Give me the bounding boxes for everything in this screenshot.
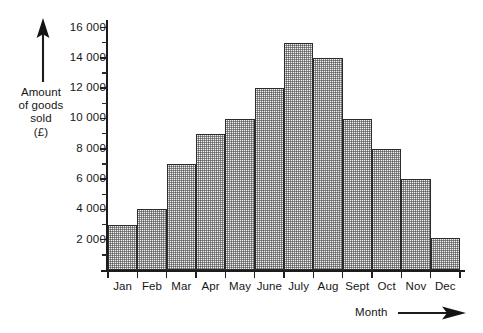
y-axis-major-tick (100, 118, 108, 120)
up-arrow-icon (33, 18, 53, 82)
x-axis-tick (342, 270, 344, 278)
x-axis-tick (371, 270, 373, 278)
bar-jan (108, 225, 137, 270)
x-axis-tick (254, 270, 256, 278)
bar-june (255, 88, 284, 270)
x-axis-tick (166, 270, 168, 278)
y-axis-tick-label: 12 000 (58, 82, 106, 94)
y-axis-tick-label: 2 000 (58, 234, 106, 246)
y-axis-tick-label: 8 000 (58, 143, 106, 155)
right-arrow-icon (398, 305, 466, 321)
y-axis-tick-labels: 2 0004 0006 0008 00010 00012 00014 00016… (58, 0, 106, 333)
x-axis-title: Month (355, 306, 387, 319)
x-axis-tick (459, 270, 461, 278)
bar-mar (167, 164, 196, 270)
y-axis-tick-label: 16 000 (58, 22, 106, 34)
y-axis-minor-tick (102, 103, 107, 104)
x-axis-label-may: May (229, 280, 251, 293)
bar-may (225, 119, 254, 271)
y-axis-minor-tick (102, 133, 107, 134)
x-axis-tick (225, 270, 227, 278)
x-axis-label-oct: Oct (378, 280, 396, 293)
plot-area (108, 20, 460, 270)
y-axis-minor-tick (102, 194, 107, 195)
bar-feb (137, 209, 166, 270)
x-axis-label-apr: Apr (202, 280, 220, 293)
bar-sept (343, 119, 372, 271)
x-axis-label-aug: Aug (318, 280, 339, 293)
x-axis-label-sept: Sept (345, 280, 369, 293)
y-axis-minor-tick (102, 42, 107, 43)
bar-oct (372, 149, 401, 270)
y-axis-major-tick (100, 27, 108, 29)
x-axis-label-july: July (288, 280, 309, 293)
x-axis-label-feb: Feb (142, 280, 162, 293)
y-axis-major-tick (100, 178, 108, 180)
y-axis-tick-label: 4 000 (58, 204, 106, 216)
bar-apr (196, 134, 225, 270)
bar-nov (401, 179, 430, 270)
x-axis-label-mar: Mar (171, 280, 191, 293)
x-axis-tick (107, 270, 109, 278)
x-axis-tick (137, 270, 139, 278)
x-axis-tick (313, 270, 315, 278)
y-axis-tick-label: 14 000 (58, 52, 106, 64)
bar-dec (431, 238, 460, 270)
x-axis-label-nov: Nov (406, 280, 427, 293)
y-axis-minor-tick (102, 254, 107, 255)
y-axis-major-tick (100, 239, 108, 241)
x-axis-tick (195, 270, 197, 278)
y-axis-major-tick (100, 209, 108, 211)
y-axis-minor-tick (102, 163, 107, 164)
y-axis-tick-label: 6 000 (58, 173, 106, 185)
y-axis-minor-tick (102, 224, 107, 225)
bar-july (284, 43, 313, 270)
x-axis-label-dec: Dec (435, 280, 456, 293)
x-axis-tick (401, 270, 403, 278)
x-axis-label-jan: Jan (113, 280, 132, 293)
y-axis-major-tick (100, 87, 108, 89)
y-axis-major-tick (100, 57, 108, 59)
bar-chart: Amount of goods sold (£) 2 0004 0006 000… (0, 0, 483, 333)
x-axis-tick (283, 270, 285, 278)
y-axis-minor-tick (102, 72, 107, 73)
x-axis-tick (430, 270, 432, 278)
y-axis-major-tick (100, 148, 108, 150)
y-axis-tick-label: 10 000 (58, 113, 106, 125)
bar-aug (313, 58, 342, 270)
x-axis-label-june: June (257, 280, 282, 293)
